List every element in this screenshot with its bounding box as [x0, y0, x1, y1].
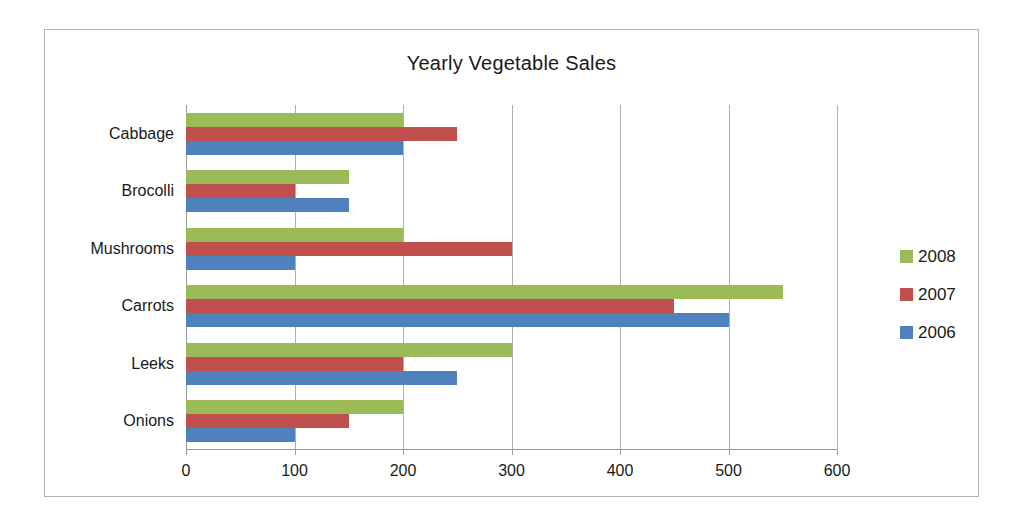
gridline-200	[403, 105, 404, 450]
legend-swatch-icon	[900, 326, 913, 339]
x-tick-label: 400	[607, 462, 634, 480]
bar	[186, 299, 674, 313]
gridline-600	[837, 105, 838, 450]
gridline-100	[295, 105, 296, 450]
gridline-300	[512, 105, 513, 450]
bar-group: Carrots	[186, 285, 837, 327]
legend-item[interactable]: 2008	[900, 237, 956, 275]
bar	[186, 313, 729, 327]
bar	[186, 127, 457, 141]
tick-mark-0	[186, 450, 187, 455]
x-tick-label: 600	[824, 462, 851, 480]
bar-group: Cabbage	[186, 113, 837, 155]
bar	[186, 141, 403, 155]
x-tick-label: 500	[715, 462, 742, 480]
bar	[186, 414, 349, 428]
category-label: Mushrooms	[90, 241, 186, 257]
category-label: Leeks	[131, 356, 186, 372]
bar	[186, 170, 349, 184]
bar-group: Leeks	[186, 343, 837, 385]
legend-swatch-icon	[900, 288, 913, 301]
bar-group: Onions	[186, 400, 837, 442]
x-tick-label: 300	[498, 462, 525, 480]
chart-legend: 200820072006	[900, 237, 956, 351]
bar	[186, 371, 457, 385]
x-tick-label: 0	[182, 462, 191, 480]
tick-mark-600	[837, 450, 838, 455]
bar	[186, 184, 295, 198]
bar	[186, 198, 349, 212]
legend-label: 2006	[918, 324, 956, 341]
bar	[186, 228, 403, 242]
x-tick-label: 200	[390, 462, 417, 480]
x-tick-label: 100	[281, 462, 308, 480]
gridline-500	[729, 105, 730, 450]
tick-mark-500	[729, 450, 730, 455]
legend-item[interactable]: 2006	[900, 313, 956, 351]
tick-mark-200	[403, 450, 404, 455]
category-label: Onions	[123, 413, 186, 429]
gridline-400	[620, 105, 621, 450]
legend-label: 2007	[918, 286, 956, 303]
chart-title: Yearly Vegetable Sales	[45, 52, 978, 75]
category-label: Brocolli	[122, 183, 186, 199]
bar	[186, 113, 403, 127]
bar-group: Mushrooms	[186, 228, 837, 270]
bar	[186, 256, 295, 270]
bar	[186, 285, 783, 299]
bar-group: Brocolli	[186, 170, 837, 212]
chart-container: Yearly Vegetable Sales 01002003004005006…	[44, 29, 979, 497]
plot-area: 0100200300400500600 CabbageBrocolliMushr…	[186, 105, 837, 450]
tick-mark-300	[512, 450, 513, 455]
category-label: Carrots	[122, 298, 186, 314]
legend-label: 2008	[918, 248, 956, 265]
gridline-0	[186, 105, 187, 450]
category-label: Cabbage	[109, 126, 186, 142]
tick-mark-400	[620, 450, 621, 455]
bar	[186, 242, 512, 256]
bar	[186, 400, 403, 414]
bar	[186, 343, 512, 357]
tick-mark-100	[295, 450, 296, 455]
legend-item[interactable]: 2007	[900, 275, 956, 313]
legend-swatch-icon	[900, 250, 913, 263]
bar	[186, 357, 403, 371]
bar	[186, 428, 295, 442]
